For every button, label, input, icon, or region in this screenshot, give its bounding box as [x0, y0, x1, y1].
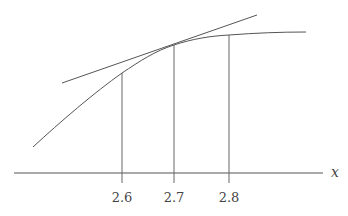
curve: [33, 32, 306, 147]
x-axis-label: x: [331, 164, 339, 180]
tick-label-2-6: 2.6: [112, 190, 133, 205]
tangent-diagram: 2.6 2.7 2.8 x: [0, 0, 348, 216]
tick-label-2-8: 2.8: [219, 190, 240, 205]
tick-label-2-7: 2.7: [164, 190, 185, 205]
tangent-line: [62, 15, 257, 83]
